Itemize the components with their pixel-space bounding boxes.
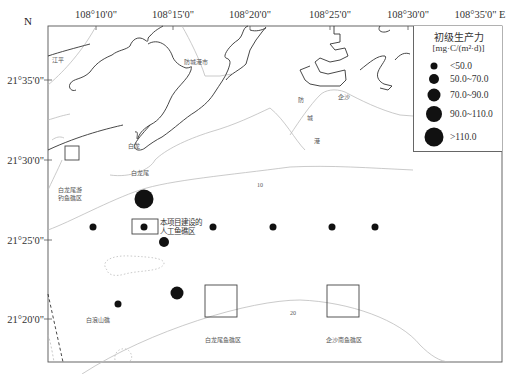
legend-dot-icon: [428, 89, 441, 102]
lon-ticks: [96, 26, 408, 30]
lat-label: 21°30'0": [7, 155, 44, 166]
legend-dot-icon: [426, 106, 442, 122]
lat-label: 21°20'0": [7, 314, 44, 325]
place-label-qisha: 企沙: [338, 92, 350, 101]
place-label-bailangshan-reef: 白浪山礁: [86, 315, 110, 324]
reef-areas: [65, 146, 359, 317]
north-label: N: [24, 15, 32, 27]
place-label-bailongwei-reef-area: 白龙尾鱼礁区: [205, 335, 241, 344]
project-reef-annotation: 本项目建设的 人工鱼礁区: [160, 218, 202, 236]
place-label-jiangping: 江平: [52, 55, 64, 64]
place-label-bailongwei: 白龙尾: [131, 168, 149, 177]
legend-title: 初级生产力: [414, 29, 503, 44]
legend-dot-icon: [425, 128, 444, 147]
place-label-qisha-south-reef-area: 企沙南鱼礁区: [326, 335, 362, 344]
lat-label: 21°25'0": [7, 235, 44, 246]
isobath-label-10: 10: [257, 182, 263, 188]
coastline: [48, 26, 410, 150]
legend-label: <50.0: [450, 61, 472, 71]
primary-productivity-map: N 108°10'0" 108°15'0" 108°20'0" 108°25'0…: [0, 0, 514, 374]
place-label-cheng: 城: [307, 113, 313, 122]
legend-label: 70.0~90.0: [450, 90, 488, 100]
legend-label: 50.0~70.0: [450, 74, 488, 84]
place-label-gang: 港: [314, 136, 320, 145]
lon-label: 108°10'0": [75, 9, 117, 20]
lon-label: 108°35'0" E: [455, 9, 506, 20]
legend-dot-icon: [429, 74, 439, 84]
place-label-bailong: 白龙: [128, 141, 140, 150]
legend-label: >110.0: [450, 132, 476, 142]
isobath-label-20: 20: [290, 310, 296, 316]
place-label-fang: 防: [298, 95, 304, 104]
place-label-bailongwei-fishing-reef: 白龙尾游 钓鱼礁区: [58, 186, 82, 202]
legend-label: 90.0~110.0: [450, 109, 493, 119]
lon-label: 108°30'0": [387, 9, 429, 20]
legend-item: >110.0: [414, 137, 503, 157]
lon-label: 108°25'0": [309, 9, 351, 20]
place-label-fangchenggang-city: 防城港市: [184, 57, 208, 66]
legend-dot-icon: [431, 63, 438, 70]
lat-label: 21°35'0": [7, 75, 44, 86]
lon-label: 108°20'0": [229, 9, 271, 20]
legend: 初级生产力 [mg·C/(m²·d)] <50.0 50.0~70.0 70.0…: [413, 26, 502, 152]
legend-unit: [mg·C/(m²·d)]: [414, 43, 503, 53]
boundary-dashed-line: [48, 294, 63, 362]
lon-label: 108°15'0": [152, 9, 194, 20]
productivity-points: [90, 190, 379, 308]
